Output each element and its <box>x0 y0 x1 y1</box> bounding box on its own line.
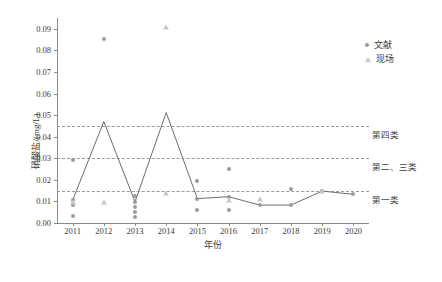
data-point-circle <box>351 192 355 196</box>
y-tick-label: 0.06 <box>11 90 57 99</box>
data-point-triangle <box>226 198 232 203</box>
x-tick-mark <box>197 223 198 226</box>
data-point-triangle <box>163 190 169 195</box>
y-tick-label: 0.08 <box>11 46 57 55</box>
legend-item: 现场 <box>365 52 394 66</box>
data-point-circle <box>133 194 137 198</box>
data-point-circle <box>102 37 106 41</box>
y-tick-label: 0.00 <box>11 219 57 228</box>
data-point-circle <box>289 187 293 191</box>
y-tick-label: 0.09 <box>11 25 57 34</box>
y-tick-label: 0.01 <box>11 197 57 206</box>
y-tick-label: 0.03 <box>11 154 57 163</box>
data-point-triangle <box>101 199 107 204</box>
y-tick-mark <box>54 223 57 224</box>
y-tick-label: 0.07 <box>11 68 57 77</box>
x-tick-mark <box>229 223 230 226</box>
plot-area: 0.000.010.020.030.040.050.060.070.080.09… <box>57 18 369 223</box>
x-tick-mark <box>166 223 167 226</box>
x-tick-mark <box>353 223 354 226</box>
data-point-circle <box>133 205 137 209</box>
x-tick-mark <box>73 223 74 226</box>
data-point-circle <box>195 208 199 212</box>
y-tick-label: 0.05 <box>11 111 57 120</box>
x-tick-label: 2012 <box>95 227 112 236</box>
x-tick-label: 2014 <box>158 227 175 236</box>
data-point-circle <box>227 208 231 212</box>
data-point-triangle <box>257 196 263 201</box>
data-point-circle <box>133 200 137 204</box>
x-tick-label: 2016 <box>220 227 237 236</box>
x-tick-label: 2011 <box>64 227 81 236</box>
x-tick-mark <box>260 223 261 226</box>
data-point-triangle <box>319 189 325 194</box>
y-tick-label: 0.04 <box>11 133 57 142</box>
chart-legend: 文献现场 <box>365 38 394 66</box>
legend-item: 文献 <box>365 38 394 52</box>
data-point-triangle <box>70 199 76 204</box>
data-point-triangle <box>163 24 169 29</box>
data-point-circle <box>133 215 137 219</box>
data-point-circle <box>289 203 293 207</box>
data-point-circle <box>258 203 262 207</box>
circle-marker-icon <box>365 43 369 47</box>
data-point-circle <box>227 167 231 171</box>
data-point-circle <box>71 214 75 218</box>
series-polyline <box>73 113 354 206</box>
x-tick-label: 2020 <box>345 227 362 236</box>
x-tick-mark <box>322 223 323 226</box>
threshold-label: 第一类 <box>372 196 399 205</box>
data-point-circle <box>195 197 199 201</box>
x-tick-label: 2019 <box>314 227 331 236</box>
legend-label: 文献 <box>374 38 392 52</box>
threshold-label: 第四类 <box>372 131 399 140</box>
data-point-circle <box>71 158 75 162</box>
x-axis-title: 年份 <box>57 238 369 251</box>
x-tick-label: 2013 <box>127 227 144 236</box>
legend-label: 现场 <box>376 52 394 66</box>
y-tick-label: 0.02 <box>11 176 57 185</box>
x-tick-label: 2017 <box>251 227 268 236</box>
x-tick-label: 2015 <box>189 227 206 236</box>
x-tick-label: 2018 <box>283 227 300 236</box>
threshold-label: 第二、三类 <box>372 163 417 172</box>
x-tick-mark <box>104 223 105 226</box>
triangle-marker-icon <box>365 57 371 62</box>
x-tick-mark <box>135 223 136 226</box>
data-point-circle <box>195 179 199 183</box>
x-tick-mark <box>291 223 292 226</box>
chart-figure: 硝酸盐/(mg/L) 年份 0.000.010.020.030.040.050.… <box>0 0 442 282</box>
